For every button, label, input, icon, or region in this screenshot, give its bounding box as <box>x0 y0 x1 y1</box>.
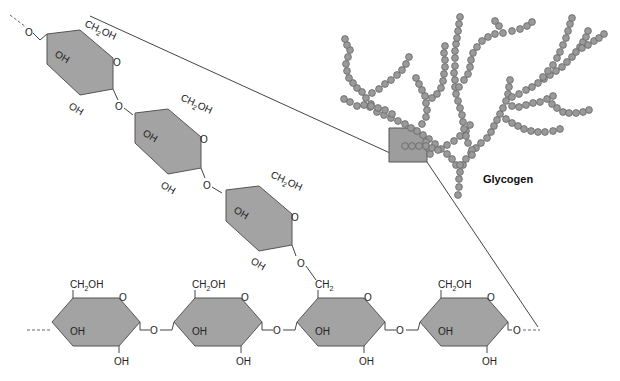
glucose-bead <box>423 100 430 107</box>
svg-text:O: O <box>115 101 123 112</box>
glucose-bead <box>441 50 448 57</box>
glucose-bead <box>375 105 382 112</box>
glucose-ring <box>420 298 508 346</box>
glucose-bead <box>529 19 536 26</box>
svg-text:O: O <box>396 325 404 336</box>
glucose-bead <box>434 91 441 98</box>
svg-text:O: O <box>291 212 299 223</box>
glucose-bead <box>503 98 510 105</box>
glucose-bead <box>399 67 406 74</box>
svg-text:OH: OH <box>159 179 177 196</box>
glucose-bead <box>424 107 431 114</box>
svg-text:OH: OH <box>438 326 453 337</box>
glucose-bead <box>516 91 523 98</box>
svg-text:O: O <box>297 258 305 269</box>
glucose-bead <box>416 143 423 150</box>
glucose-bead <box>517 26 524 33</box>
glucose-bead <box>420 132 427 139</box>
glucose-bead <box>459 112 466 119</box>
glucose-bead <box>456 184 463 191</box>
glucose-bead <box>467 64 474 71</box>
glucose-bead <box>455 192 462 199</box>
glucose-bead <box>542 129 549 136</box>
glucose-bead <box>369 90 376 97</box>
glucose-bead <box>492 18 499 25</box>
glucose-bead <box>457 14 464 21</box>
glucose-bead <box>479 38 486 45</box>
glucose-bead <box>461 126 468 133</box>
glucose-bead <box>408 125 415 132</box>
glucose-bead <box>550 62 557 69</box>
glucose-bead <box>344 68 351 75</box>
glucose-bead <box>507 77 514 84</box>
glucose-bead <box>468 57 475 64</box>
branch-glucose-3: CH2OH O OH OH O <box>226 169 316 280</box>
glucose-bead <box>440 78 447 85</box>
glucose-bead <box>403 61 410 68</box>
glucose-bead <box>535 129 542 136</box>
glucose-bead <box>395 118 402 125</box>
glucose-bead <box>550 93 557 100</box>
glucose-bead <box>509 94 516 101</box>
svg-text:O: O <box>113 57 121 68</box>
svg-text:CH2OH: CH2OH <box>192 279 225 292</box>
glucose-bead <box>569 15 576 22</box>
glucose-bead <box>343 61 350 68</box>
svg-text:O: O <box>241 292 249 303</box>
svg-text:OH: OH <box>249 255 267 272</box>
main-glucose-2: CH2OH O OH OH O <box>174 279 297 367</box>
glycogen-diagram: O CH2OH O OH OH O CH2OH O OH OH O CH2OH … <box>0 0 620 381</box>
glucose-bead <box>550 128 557 135</box>
glucose-bead <box>465 71 472 78</box>
glucose-ring <box>52 298 140 346</box>
glucose-bead <box>509 28 516 35</box>
glucose-ring <box>297 298 385 346</box>
glucose-bead <box>345 54 352 61</box>
glucose-bead <box>469 152 476 159</box>
main-glucose-4: CH2OH O OH OH O <box>420 279 540 367</box>
glucose-bead <box>363 95 370 102</box>
svg-text:OH: OH <box>67 100 85 117</box>
branch-glucose-2: CH2OH O OH OH O <box>135 92 222 196</box>
glucose-bead <box>444 142 451 149</box>
glucose-bead <box>452 63 459 70</box>
svg-text:O: O <box>203 180 211 191</box>
glucose-bead <box>465 140 472 147</box>
glucose-bead <box>540 74 547 81</box>
glucose-bead <box>368 103 375 110</box>
glucose-bead <box>467 122 474 129</box>
svg-text:CH2OH: CH2OH <box>438 279 471 292</box>
glucose-bead <box>565 28 572 35</box>
glucose-bead <box>409 143 416 150</box>
main-glucose-3-branch-point: CH2 O OH OH O <box>297 279 420 367</box>
glucose-bead <box>457 169 464 176</box>
svg-text:O: O <box>200 134 208 145</box>
o-label: O <box>25 27 33 38</box>
svg-text:OH: OH <box>482 356 497 367</box>
glucose-bead <box>442 64 449 71</box>
svg-text:OH: OH <box>315 326 330 337</box>
glucose-bead <box>460 119 467 126</box>
glucose-bead <box>452 55 459 62</box>
glucose-bead <box>529 84 536 91</box>
svg-text:OH: OH <box>192 326 207 337</box>
svg-text:OH: OH <box>114 356 129 367</box>
glucose-bead <box>530 100 537 107</box>
glucose-bead <box>478 140 485 147</box>
glucose-bead <box>435 147 442 154</box>
glucose-bead <box>523 102 530 109</box>
glucose-bead <box>346 75 353 82</box>
glucose-bead <box>413 75 420 82</box>
glucose-bead <box>557 49 564 56</box>
glucose-bead <box>388 77 395 84</box>
glucose-bead <box>461 77 468 84</box>
glucose-bead <box>441 71 448 78</box>
glucose-bead <box>382 107 389 114</box>
glucose-bead <box>566 110 573 117</box>
glucose-bead <box>503 116 510 123</box>
glucose-bead <box>451 70 458 77</box>
glucose-bead <box>573 110 580 117</box>
glucose-bead <box>376 86 383 93</box>
glucose-bead <box>452 48 459 55</box>
glucose-ring <box>174 298 262 346</box>
